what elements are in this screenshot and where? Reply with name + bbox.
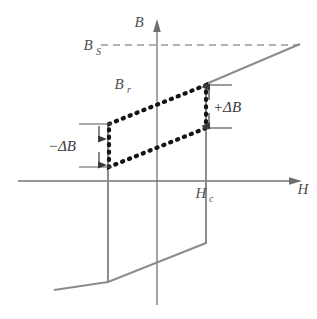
coercivity-label: H [195, 185, 208, 201]
vertical-axis-arrowhead [153, 19, 161, 32]
remanence-label: B [114, 76, 123, 92]
remanence-label-subscript: r [127, 84, 131, 95]
hysteresis-figure: +ΔB −ΔB B H B S B r H c [0, 0, 317, 319]
coercivity-label-subscript: c [209, 193, 214, 204]
delta-b-negative-label: −ΔB [48, 138, 76, 154]
remanence-label-group: B r [114, 76, 131, 95]
delta-b-positive-label: +ΔB [213, 99, 241, 115]
vertical-axis-label: B [134, 14, 143, 30]
saturation-label: B [83, 37, 92, 53]
coercivity-label-group: H c [195, 185, 214, 204]
delta-b-positive-dimension: +ΔB [203, 85, 241, 128]
delta-b-negative-dimension: −ΔB [48, 124, 112, 167]
horizontal-axis-label: H [297, 181, 310, 197]
saturation-label-group: B S [83, 37, 101, 57]
hysteresis-diagram-svg: +ΔB −ΔB B H B S B r H c [0, 0, 317, 319]
saturation-label-subscript: S [96, 46, 101, 57]
